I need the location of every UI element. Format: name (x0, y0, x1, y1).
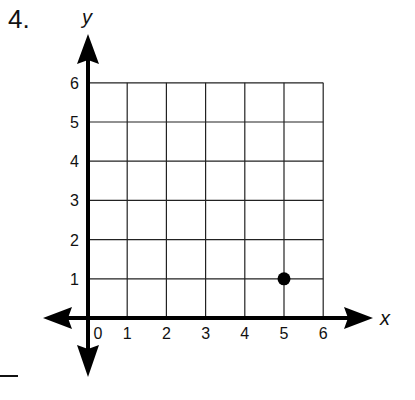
y-axis-down-arrow-icon (77, 345, 99, 377)
y-tick-label: 3 (70, 192, 79, 209)
x-axis-right-arrow-icon (344, 307, 373, 329)
data-points (278, 272, 291, 285)
y-axis-label: y (80, 6, 93, 28)
x-axis-left-arrow-icon (43, 307, 72, 329)
x-tick-label: 3 (201, 325, 210, 342)
y-tick-label: 4 (70, 153, 79, 170)
y-tick-label: 2 (70, 232, 79, 249)
y-tick-label: 1 (70, 271, 79, 288)
x-tick-label: 0 (94, 325, 103, 342)
x-tick-label: 1 (123, 325, 132, 342)
coordinate-plane: 0123456123456 x y (0, 0, 415, 400)
x-tick-label: 6 (319, 325, 328, 342)
x-tick-label: 4 (240, 325, 249, 342)
tick-labels: 0123456123456 (70, 75, 328, 342)
data-point (278, 272, 291, 285)
x-tick-label: 5 (280, 325, 289, 342)
y-tick-label: 5 (70, 114, 79, 131)
x-tick-label: 2 (162, 325, 171, 342)
y-tick-label: 6 (70, 75, 79, 92)
y-axis-up-arrow-icon (77, 34, 99, 64)
x-axis-label: x (379, 307, 391, 329)
